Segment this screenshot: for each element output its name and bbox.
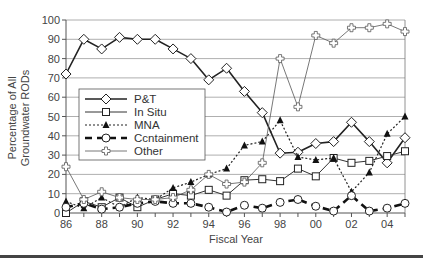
y-tick-label: 40 (48, 130, 60, 142)
cross-marker (62, 163, 70, 171)
line-chart: 0102030405060708090100 86889092949698000… (0, 0, 423, 258)
y-axis-ticks: 0102030405060708090100 (42, 14, 66, 219)
circle-marker (401, 199, 409, 207)
square-marker (402, 148, 409, 155)
circle-marker (383, 204, 391, 212)
y-axis-label-line: Groundwater RODs (19, 69, 31, 166)
circle-marker (240, 201, 248, 209)
circle-marker (187, 199, 195, 207)
legend-label: Other (134, 145, 163, 157)
cross-marker (312, 31, 320, 39)
y-tick-label: 70 (48, 72, 60, 84)
y-tick-label: 10 (48, 188, 60, 200)
circle-marker (347, 192, 355, 200)
diamond-marker (132, 34, 142, 44)
x-tick-label: 98 (274, 218, 286, 230)
square-marker (294, 165, 301, 172)
x-axis-label: Fiscal Year (209, 233, 263, 245)
y-tick-label: 50 (48, 111, 60, 123)
legend-label: MNA (134, 119, 160, 131)
triangle-marker (259, 138, 266, 145)
x-tick-label: 94 (203, 218, 215, 230)
x-tick-label: 00 (310, 218, 322, 230)
diamond-marker (79, 34, 89, 44)
y-tick-label: 60 (48, 91, 60, 103)
square-marker (205, 186, 212, 193)
legend: P&TIn SituMNACcntainmentOther (79, 89, 205, 160)
cross-marker (383, 20, 391, 28)
square-marker (277, 178, 284, 185)
square-marker (348, 159, 355, 166)
y-axis-label-line: Percentage of All (6, 76, 18, 159)
x-tick-label: 86 (60, 218, 72, 230)
square-marker (223, 192, 230, 199)
circle-marker (98, 205, 106, 213)
cross-marker (276, 55, 284, 63)
circle-marker (116, 203, 124, 211)
triangle-marker (402, 113, 409, 120)
triangle-marker (366, 168, 373, 175)
circle-marker (102, 134, 110, 142)
cross-marker (294, 103, 302, 111)
circle-marker (205, 203, 213, 211)
diamond-marker (115, 32, 125, 42)
legend-label: Ccntainment (134, 132, 199, 144)
circle-marker (312, 202, 320, 210)
square-marker (384, 153, 391, 160)
legend-label: In Situ (134, 106, 167, 118)
circle-marker (276, 198, 284, 206)
diamond-marker (400, 133, 410, 143)
x-axis-ticks: 86889092949698000204 (60, 213, 405, 230)
circle-marker (62, 203, 70, 211)
legend-label: P&T (134, 93, 156, 105)
x-tick-label: 92 (167, 218, 179, 230)
x-tick-label: 88 (96, 218, 108, 230)
diamond-marker (311, 139, 321, 149)
cross-marker (98, 188, 106, 196)
circle-marker (294, 195, 302, 203)
y-tick-label: 80 (48, 53, 60, 65)
diamond-marker (150, 34, 160, 44)
y-axis-label: Percentage of AllGroundwater RODs (6, 69, 31, 166)
diamond-marker (97, 44, 107, 54)
square-marker (259, 176, 266, 183)
circle-marker (258, 204, 266, 212)
cross-marker (365, 24, 373, 32)
diamond-marker (168, 44, 178, 54)
square-marker (312, 173, 319, 180)
triangle-marker (170, 184, 177, 191)
square-marker (103, 109, 110, 116)
circle-marker (365, 207, 373, 215)
y-tick-label: 100 (42, 14, 60, 26)
square-marker (366, 157, 373, 164)
y-tick-label: 90 (48, 33, 60, 45)
x-tick-label: 04 (381, 218, 393, 230)
triangle-marker (277, 116, 284, 123)
x-tick-label: 96 (238, 218, 250, 230)
y-tick-label: 20 (48, 168, 60, 180)
y-tick-label: 30 (48, 149, 60, 161)
cross-marker (223, 180, 231, 188)
x-tick-label: 90 (131, 218, 143, 230)
circle-marker (330, 207, 338, 215)
cross-marker (401, 28, 409, 36)
triangle-marker (384, 130, 391, 137)
circle-marker (223, 208, 231, 216)
diamond-marker (275, 148, 285, 158)
x-tick-label: 02 (345, 218, 357, 230)
